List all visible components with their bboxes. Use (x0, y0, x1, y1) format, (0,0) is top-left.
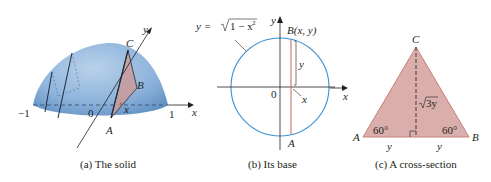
label-one: 1 (169, 108, 175, 120)
label-C-c: C (412, 33, 420, 45)
label-B-point: B(x, y) (287, 24, 317, 37)
label-angle-right: 60° (442, 124, 457, 136)
equation-exponent: 2 (252, 19, 256, 27)
y-axis-b-arrow-icon (277, 16, 283, 23)
label-base-left: y (386, 140, 392, 152)
label-zero-a: 0 (88, 107, 94, 119)
label-A-b: A (287, 137, 295, 149)
dome-solid (33, 43, 168, 116)
label-zero-b: 0 (271, 88, 277, 100)
y-length-bracket (294, 41, 296, 85)
figure-canvas: −1 0 1 x y x A B C (a) The solid y = 1 −… (0, 0, 491, 182)
label-x-axis-a: x (191, 106, 197, 118)
label-A-c: A (352, 131, 360, 143)
panel-c-cross-section: x C A B 3y 60° 60° y y (c) A cross-secti… (330, 33, 479, 171)
label-A-a: A (105, 124, 113, 136)
equation-pointer (235, 40, 246, 51)
equation-prefix: y = (195, 20, 211, 32)
label-B-c: B (472, 131, 479, 143)
equation-radicand: 1 − x (230, 20, 253, 32)
caption-b: (b) Its base (248, 158, 297, 171)
caption-a: (a) The solid (80, 158, 137, 171)
label-x-axis-c: x (342, 90, 348, 102)
label-y-length: y (298, 58, 304, 70)
label-y-axis-a: y (142, 23, 148, 35)
label-height: 3y (426, 97, 438, 109)
label-base-right: y (436, 140, 442, 152)
label-x-point-b: x (301, 93, 307, 105)
label-minus-one: −1 (18, 107, 30, 119)
panel-b-base: y = 1 − x 2 y B(x, y) y 0 x A (b) Its ba… (195, 14, 335, 171)
label-x-point-a: x (123, 103, 129, 115)
panel-a-solid: −1 0 1 x y x A B C (a) The solid (18, 23, 197, 171)
label-B-a: B (137, 79, 144, 91)
x-pointer (293, 89, 301, 96)
x-point-marker (120, 103, 123, 106)
label-y-axis-b: y (270, 14, 276, 26)
label-angle-left: 60° (373, 124, 388, 136)
label-C-a: C (126, 37, 134, 49)
caption-c: (c) A cross-section (375, 158, 457, 171)
